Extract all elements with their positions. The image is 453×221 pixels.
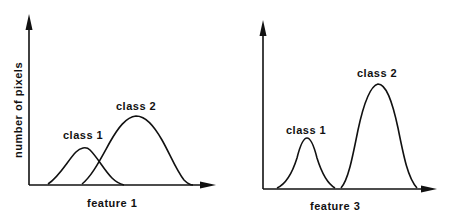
right-class1-curve — [277, 138, 335, 188]
right-class2-label: class 2 — [357, 67, 397, 79]
right-chart: class 1 class 2 feature 3 — [260, 20, 438, 212]
right-x-axis-label: feature 3 — [310, 200, 360, 212]
left-x-axis-arrow-icon — [200, 182, 216, 189]
left-class2-label: class 2 — [116, 100, 156, 112]
right-y-axis-arrow-icon — [260, 20, 267, 36]
left-x-axis-label: feature 1 — [87, 197, 137, 209]
left-chart: class 1 class 2 feature 1 number of pixe… — [12, 14, 216, 209]
left-y-axis-label: number of pixels — [12, 62, 24, 158]
left-class1-label: class 1 — [63, 129, 103, 141]
left-y-axis-arrow-icon — [26, 14, 33, 30]
figure-canvas: class 1 class 2 feature 1 number of pixe… — [0, 0, 453, 221]
right-x-axis-arrow-icon — [421, 186, 437, 193]
right-class2-curve — [341, 84, 417, 188]
left-class2-curve — [82, 116, 193, 185]
right-class1-label: class 1 — [286, 124, 326, 136]
